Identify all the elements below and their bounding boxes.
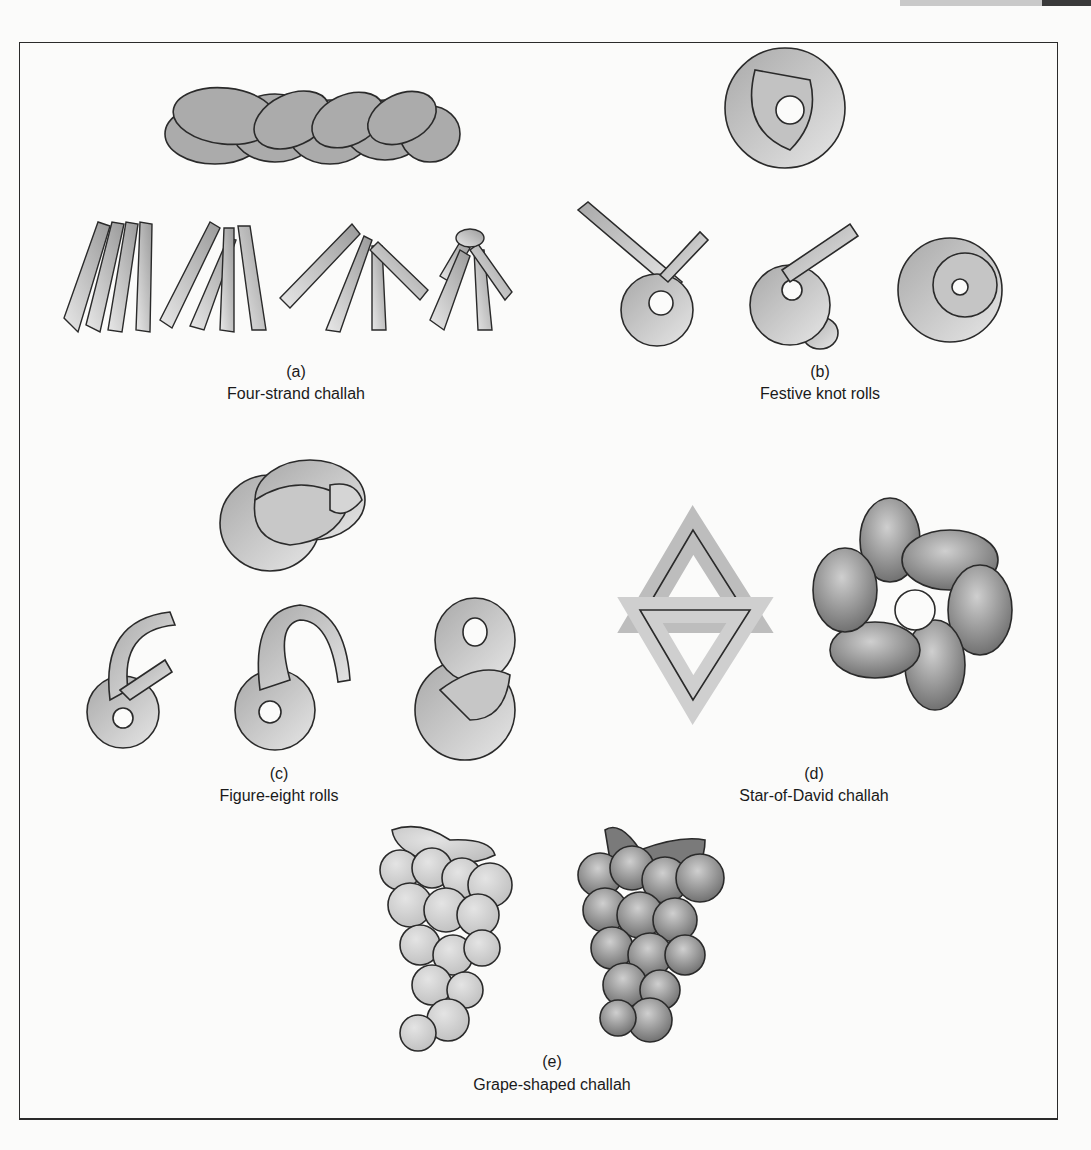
figure-illustrations <box>0 0 1091 1150</box>
knot-roll-step3-icon <box>898 238 1002 342</box>
panel-e-caption: Grape-shaped challah <box>473 1075 630 1095</box>
knot-roll-step1-icon <box>578 202 708 346</box>
braided-loaf-icon <box>165 80 460 164</box>
star-of-david-light-icon <box>640 530 750 700</box>
panel-c-caption: Figure-eight rolls <box>219 786 338 806</box>
panel-c-letter: (c) <box>270 764 289 784</box>
figure-eight-step2-icon <box>235 605 350 750</box>
star-of-david-baked-icon <box>813 498 1012 710</box>
panel-b-letter: (b) <box>810 362 830 382</box>
knot-roll-step2-icon <box>750 224 858 349</box>
strand-steps-icon <box>64 222 512 332</box>
panel-a-caption: Four-strand challah <box>227 384 365 404</box>
grape-challah-light-icon <box>380 827 512 1051</box>
figure-eight-step3-icon <box>415 598 515 760</box>
panel-d-caption: Star-of-David challah <box>739 786 888 806</box>
panel-e-letter: (e) <box>542 1052 562 1072</box>
figure-eight-step1-icon <box>87 612 175 748</box>
panel-a-letter: (a) <box>286 362 306 382</box>
knot-roll-large-icon <box>725 48 845 168</box>
grape-challah-baked-icon <box>578 828 724 1043</box>
panel-d-letter: (d) <box>804 764 824 784</box>
figure-eight-large-icon <box>220 460 365 571</box>
panel-b-caption: Festive knot rolls <box>760 384 880 404</box>
